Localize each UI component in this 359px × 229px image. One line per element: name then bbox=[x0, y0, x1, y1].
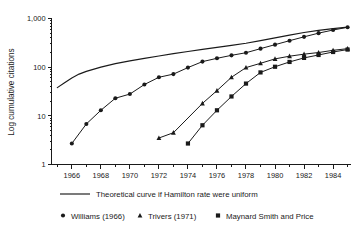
data-point-marker bbox=[345, 47, 349, 51]
data-point-marker bbox=[229, 94, 233, 98]
data-point-marker bbox=[273, 43, 277, 47]
y-tick-label: 1,000 bbox=[27, 14, 46, 23]
legend-marker-circle bbox=[61, 213, 65, 217]
legend-label-triangle: Trivers (1971) bbox=[148, 212, 197, 221]
data-point-marker bbox=[157, 75, 161, 79]
x-tick-label: 1966 bbox=[64, 171, 80, 180]
data-point-marker bbox=[171, 72, 175, 76]
data-point-marker bbox=[287, 60, 291, 64]
data-point-marker bbox=[258, 47, 262, 51]
data-point-marker bbox=[200, 60, 204, 64]
data-point-marker bbox=[84, 122, 88, 126]
data-point-marker bbox=[186, 141, 190, 145]
data-point-marker bbox=[258, 70, 262, 74]
data-point-marker bbox=[346, 25, 350, 29]
data-point-marker bbox=[99, 108, 103, 112]
data-point-marker bbox=[273, 65, 277, 69]
data-point-marker bbox=[302, 35, 306, 39]
data-point-marker bbox=[215, 56, 219, 60]
data-point-marker bbox=[70, 141, 74, 145]
data-point-marker bbox=[302, 56, 306, 60]
legend-marker-square bbox=[216, 213, 220, 217]
legend-label-square: Maynard Smith and Price bbox=[226, 212, 314, 221]
data-point-marker bbox=[244, 81, 248, 85]
data-point-marker bbox=[215, 108, 219, 112]
data-point-marker bbox=[331, 28, 335, 32]
data-point-marker bbox=[317, 31, 321, 35]
x-tick-label: 1970 bbox=[122, 171, 138, 180]
x-tick-label: 1984 bbox=[325, 171, 341, 180]
x-tick-label: 1982 bbox=[296, 171, 312, 180]
y-tick-label: 10 bbox=[37, 112, 45, 121]
y-axis-title-label: Log cumulative citations bbox=[7, 48, 16, 135]
data-point-marker bbox=[244, 51, 248, 55]
y-axis-title: Log cumulative citations bbox=[7, 48, 16, 135]
data-point-marker bbox=[128, 92, 132, 96]
citation-chart-figure: Log cumulative citations 1,000100101 196… bbox=[0, 0, 359, 229]
data-point-marker bbox=[186, 66, 190, 70]
x-tick-label: 1978 bbox=[238, 171, 254, 180]
x-tick-label: 1974 bbox=[180, 171, 196, 180]
chart-canvas: Log cumulative citations 1,000100101 196… bbox=[0, 0, 359, 229]
x-tick-label: 1968 bbox=[93, 171, 109, 180]
data-point-marker bbox=[331, 50, 335, 54]
data-point-marker bbox=[142, 82, 146, 86]
data-point-marker bbox=[200, 123, 204, 127]
data-point-marker bbox=[113, 96, 117, 100]
x-tick-label: 1980 bbox=[267, 171, 283, 180]
x-tick-label: 1972 bbox=[151, 171, 167, 180]
x-tick-label: 1976 bbox=[209, 171, 225, 180]
y-tick-label: 1 bbox=[41, 160, 45, 169]
legend-label-theoretical-curve: Theoretical curve if Hamilton rate were … bbox=[96, 190, 258, 199]
legend-label-circle: Williams (1966) bbox=[71, 212, 125, 221]
data-point-marker bbox=[287, 39, 291, 43]
y-tick-label: 100 bbox=[33, 63, 45, 72]
data-point-marker bbox=[229, 53, 233, 57]
data-point-marker bbox=[316, 53, 320, 57]
